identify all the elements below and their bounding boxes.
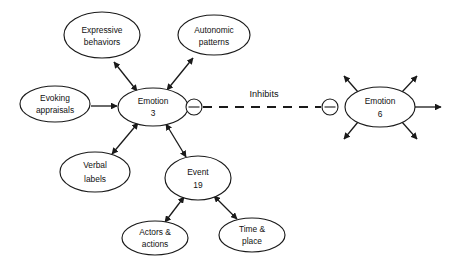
node-label-line1: Time & [239,224,266,234]
node-ellipse-shape [122,221,188,255]
node-emotion-3[interactable]: Emotion 3 [118,88,188,126]
node-label-line1: Verbal [83,160,107,170]
node-event-19[interactable]: Event 19 [165,156,231,200]
node-ellipse-shape [345,87,415,127]
edge-emotion6-out-up-left [344,76,358,92]
edge-emotion6-out-down-left [344,122,358,139]
node-label-line1: Actors & [139,227,171,237]
edge-emotion6-out-down-right [402,122,417,139]
node-label-line1: Emotion [138,96,169,106]
node-label-line1: Emotion [365,96,396,106]
minus-sign-icon-left [186,99,202,115]
edge-emotion3-autonomic-patterns [167,58,193,90]
edge-label-layer: Inhibits [249,89,279,99]
minus-sign-icon-right [322,99,338,115]
node-ellipse-shape [165,156,231,200]
node-label-line1: Autonomic [194,25,234,35]
edge-emotion3-event19 [166,124,186,157]
node-label-line2: 3 [151,108,156,118]
inhibits-label: Inhibits [249,89,279,99]
node-expressive-behaviors[interactable]: Expressive behaviors [64,12,140,58]
edge-layer [91,58,441,222]
node-label-line2: behaviors [84,37,120,47]
node-label-line1: Event [187,167,209,177]
edge-event19-time-place [214,196,237,219]
node-ellipse-shape [20,86,90,122]
diagram-canvas: Expressive behaviors Autonomic patterns … [0,0,451,271]
node-ellipse-shape [60,152,130,192]
edge-emotion3-expressive-behaviors [114,62,137,91]
node-label-line1: Expressive [82,25,123,35]
node-layer: Expressive behaviors Autonomic patterns … [20,12,415,255]
node-actors-actions[interactable]: Actors & actions [122,221,188,255]
node-ellipse-shape [219,218,285,252]
edge-event19-actors-actions [165,197,184,222]
node-verbal-labels[interactable]: Verbal labels [60,152,130,192]
node-label-line2: actions [142,239,169,249]
node-label-line1: Evoking [40,93,70,103]
node-ellipse-shape [118,88,188,126]
node-autonomic-patterns[interactable]: Autonomic patterns [178,15,250,55]
node-label-line2: 19 [193,180,203,190]
node-label-line2: appraisals [36,105,74,115]
node-label-line2: labels [84,174,106,184]
edge-emotion6-out-up-right [402,76,417,92]
node-emotion-6[interactable]: Emotion 6 [345,87,415,127]
node-label-line2: 6 [378,109,383,119]
node-label-line2: patterns [199,37,229,47]
emotion-network-diagram: Expressive behaviors Autonomic patterns … [0,0,451,271]
edge-emotion3-verbal-labels [112,123,138,154]
node-time-place[interactable]: Time & place [219,218,285,252]
node-evoking-appraisals[interactable]: Evoking appraisals [20,86,90,122]
node-label-line2: place [242,236,262,246]
